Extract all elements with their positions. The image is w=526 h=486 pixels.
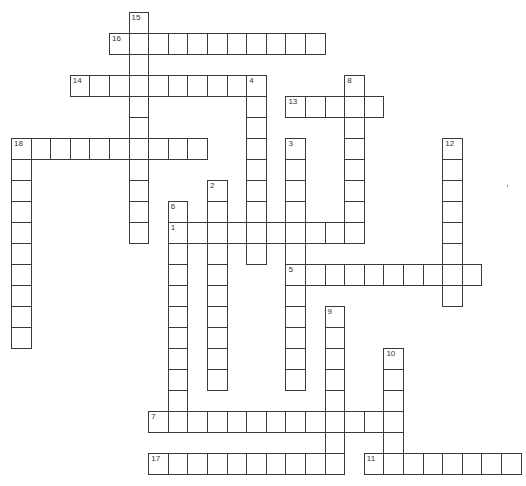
crossword-cell[interactable] [403,453,424,475]
crossword-cell[interactable] [383,369,404,391]
crossword-cell[interactable] [207,285,228,307]
crossword-cell[interactable] [344,222,365,244]
crossword-cell[interactable] [129,138,150,160]
crossword-cell[interactable] [168,453,189,475]
crossword-cell[interactable] [246,159,267,181]
crossword-cell[interactable] [344,96,365,118]
crossword-cell[interactable] [227,222,248,244]
crossword-cell[interactable] [70,138,91,160]
crossword-cell[interactable] [11,159,32,181]
crossword-cell[interactable] [325,453,346,475]
crossword-cell[interactable] [285,159,306,181]
crossword-cell[interactable] [168,327,189,349]
crossword-cell[interactable] [442,222,463,244]
crossword-cell[interactable] [246,96,267,118]
crossword-cell[interactable] [501,453,522,475]
crossword-cell[interactable] [11,306,32,328]
crossword-cell[interactable] [285,369,306,391]
crossword-cell[interactable] [11,264,32,286]
crossword-cell[interactable] [187,453,208,475]
crossword-cell[interactable] [442,243,463,265]
crossword-cell[interactable] [129,75,150,97]
crossword-cell[interactable] [187,138,208,160]
crossword-cell[interactable] [325,369,346,391]
crossword-cell[interactable] [285,348,306,370]
crossword-cell[interactable] [207,306,228,328]
crossword-cell[interactable]: 1 [168,222,189,244]
crossword-cell[interactable] [383,264,404,286]
crossword-cell[interactable] [187,75,208,97]
crossword-cell[interactable] [423,264,444,286]
crossword-cell[interactable] [148,75,169,97]
crossword-cell[interactable]: 14 [70,75,91,97]
crossword-cell[interactable] [187,411,208,433]
crossword-cell[interactable] [364,411,385,433]
crossword-cell[interactable] [227,75,248,97]
crossword-cell[interactable] [344,264,365,286]
crossword-cell[interactable]: 18 [11,138,32,160]
crossword-cell[interactable] [423,453,444,475]
crossword-cell[interactable] [227,411,248,433]
crossword-cell[interactable] [325,390,346,412]
crossword-cell[interactable] [442,180,463,202]
crossword-cell[interactable] [11,201,32,223]
crossword-cell[interactable] [129,33,150,55]
crossword-cell[interactable] [325,327,346,349]
crossword-cell[interactable]: 13 [285,96,306,118]
crossword-cell[interactable] [305,222,326,244]
crossword-cell[interactable] [168,369,189,391]
crossword-cell[interactable]: 8 [344,75,365,97]
crossword-cell[interactable] [246,33,267,55]
crossword-cell[interactable] [246,222,267,244]
crossword-cell[interactable] [168,411,189,433]
crossword-cell[interactable]: 4 [246,75,267,97]
crossword-cell[interactable] [207,33,228,55]
crossword-cell[interactable] [50,138,71,160]
crossword-cell[interactable] [207,222,228,244]
crossword-cell[interactable] [129,117,150,139]
crossword-cell[interactable] [129,96,150,118]
crossword-cell[interactable] [325,411,346,433]
crossword-cell[interactable] [11,243,32,265]
crossword-cell[interactable] [266,453,287,475]
crossword-cell[interactable]: 2 [207,180,228,202]
crossword-cell[interactable] [227,453,248,475]
crossword-cell[interactable] [481,453,502,475]
crossword-cell[interactable]: 6 [168,201,189,223]
crossword-cell[interactable]: 7 [148,411,169,433]
crossword-cell[interactable] [168,264,189,286]
crossword-cell[interactable] [305,264,326,286]
crossword-cell[interactable] [11,180,32,202]
crossword-cell[interactable] [168,285,189,307]
crossword-cell[interactable] [168,33,189,55]
crossword-cell[interactable] [129,180,150,202]
crossword-cell[interactable] [344,180,365,202]
crossword-cell[interactable] [168,243,189,265]
crossword-cell[interactable] [11,222,32,244]
crossword-cell[interactable] [207,201,228,223]
crossword-cell[interactable] [168,75,189,97]
crossword-cell[interactable] [207,348,228,370]
crossword-cell[interactable] [442,201,463,223]
crossword-cell[interactable] [285,285,306,307]
crossword-cell[interactable] [285,306,306,328]
crossword-cell[interactable] [266,222,287,244]
crossword-cell[interactable] [168,138,189,160]
crossword-cell[interactable] [11,285,32,307]
crossword-cell[interactable] [442,159,463,181]
crossword-cell[interactable] [246,117,267,139]
crossword-cell[interactable] [129,54,150,76]
crossword-cell[interactable] [403,264,424,286]
crossword-cell[interactable] [344,159,365,181]
crossword-cell[interactable] [285,222,306,244]
crossword-cell[interactable] [129,201,150,223]
crossword-cell[interactable] [383,432,404,454]
crossword-cell[interactable] [344,411,365,433]
crossword-cell[interactable] [305,453,326,475]
crossword-cell[interactable] [129,159,150,181]
crossword-cell[interactable] [148,33,169,55]
crossword-cell[interactable] [442,453,463,475]
crossword-cell[interactable] [168,306,189,328]
crossword-cell[interactable] [285,201,306,223]
crossword-cell[interactable] [207,243,228,265]
